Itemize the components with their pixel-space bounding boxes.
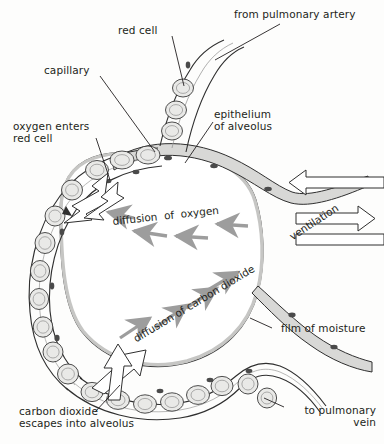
leader-from-pulmonary-artery [215,24,280,60]
label-oxygen-enters-red-cell-line1: oxygen enters [13,120,89,132]
carbon-dioxide-escape-arrows [92,344,146,400]
diagram-canvas: red cell from pulmonary artery capillary… [0,0,384,444]
label-capillary: capillary [44,64,90,76]
label-carbon-dioxide-escapes-line2: escapes into alveolus [19,417,134,429]
label-to-pulmonary-vein-line1: to pulmonary [288,404,376,416]
label-oxygen-enters-red-cell-line2: red cell [13,132,52,144]
label-from-pulmonary-artery: from pulmonary artery [234,8,356,20]
label-film-of-moisture: film of moisture [281,322,366,334]
leader-red-cell [172,36,184,86]
label-red-cell: red cell [118,24,157,36]
label-to-pulmonary-vein-line2: vein [288,416,376,428]
leader-capillary [100,76,155,152]
label-epithelium-of-alveolus-line2: of alveolus [214,120,272,132]
label-carbon-dioxide-escapes-line1: carbon dioxide [19,405,98,417]
label-epithelium-of-alveolus-line1: epithelium [214,108,271,120]
leader-film-of-moisture [250,318,272,328]
